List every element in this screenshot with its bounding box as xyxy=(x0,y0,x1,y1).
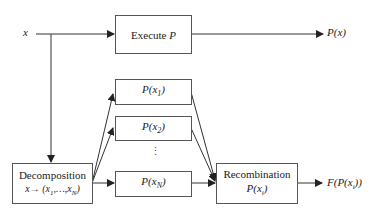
sub-box-text: P( xyxy=(142,120,152,132)
map-prefix: x→ ( xyxy=(25,183,45,194)
decomposition-box: Decomposition x→ (x1,…,xN) xyxy=(12,163,93,204)
final-output-label: F(P(xi)) xyxy=(327,176,362,191)
execute-p-box: Execute P xyxy=(115,15,192,54)
decomposition-mapping: x→ (x1,…,xN) xyxy=(25,182,80,200)
sub-box-close: ) xyxy=(162,175,166,187)
formula-open: P( xyxy=(247,182,257,194)
sub-box-text: P( xyxy=(142,83,152,95)
ellipsis-vertical: ⋮ xyxy=(150,149,161,153)
decomposition-title: Decomposition xyxy=(19,168,86,182)
sub-box-p-xn: P(xN) xyxy=(115,171,192,197)
execute-label: Execute xyxy=(131,29,166,41)
sub-box-p-x2: P(x2) xyxy=(115,116,192,141)
sub-box-close: ) xyxy=(161,120,165,132)
recombination-title: Recombination xyxy=(223,167,290,181)
sub-box-text: P( xyxy=(141,175,151,187)
execute-symbol: P xyxy=(169,29,176,41)
recombination-formula: P(xi) xyxy=(247,181,268,200)
sub-box-close: ) xyxy=(161,83,165,95)
output-px-label: P(x) xyxy=(327,26,346,38)
map-close: ) xyxy=(76,183,79,194)
final-close: )) xyxy=(355,176,362,188)
input-x-label: x xyxy=(23,26,28,38)
final-open: F(P( xyxy=(327,176,348,188)
recombination-box: Recombination P(xi) xyxy=(216,163,298,204)
sub-box-p-x1: P(x1) xyxy=(115,79,192,105)
map-mid: ,…, xyxy=(53,183,67,194)
formula-close: ) xyxy=(264,182,268,194)
